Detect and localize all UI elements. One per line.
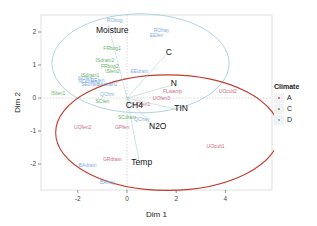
x-tick-label: 0 — [125, 195, 129, 202]
legend-item-d: D — [274, 114, 316, 125]
site-label: GPfen — [115, 124, 129, 130]
y-axis-label: Dim 2 — [13, 92, 22, 113]
variable-label: N — [171, 78, 177, 88]
site-label: BAdrain — [79, 162, 97, 168]
site-label: UOfen2 — [74, 124, 91, 130]
legend-item-c: C — [274, 103, 316, 114]
site-label: ISfen2 — [105, 68, 120, 74]
y-tick-label: 2 — [32, 28, 36, 35]
variable-label: TIN — [174, 103, 188, 113]
site-label: ISfen1 — [51, 90, 66, 96]
site-label: GRdrain — [103, 156, 122, 162]
x-tick-label: 4 — [224, 195, 228, 202]
x-tick-label: 2 — [174, 195, 178, 202]
dot-icon — [278, 108, 280, 110]
site-label: UOcult2 — [219, 88, 237, 94]
site-label: SCfen — [95, 98, 109, 104]
y-tick-label: 0 — [32, 94, 36, 101]
site-label: ISdrain2 — [96, 57, 115, 63]
variable-label: Moisture — [96, 25, 129, 35]
variable-label: CH4 — [126, 100, 143, 110]
site-label: FRbog1 — [103, 45, 121, 51]
legend-key — [274, 93, 284, 103]
variable-label: N2O — [149, 121, 167, 131]
dot-icon — [278, 97, 280, 99]
legend-label: A — [287, 94, 292, 101]
site-label: UOcult1 — [207, 143, 225, 149]
legend-key — [274, 115, 284, 125]
site-label: RObog — [107, 17, 123, 23]
legend-item-a: A — [274, 92, 316, 103]
variable-label: C — [166, 47, 172, 57]
x-axis-label: Dim 1 — [146, 210, 167, 219]
legend-title: Climate — [274, 83, 316, 90]
x-tick-label: -2 — [75, 195, 81, 202]
legend: Climate ACD — [274, 83, 316, 125]
plot-panel — [41, 15, 272, 190]
dot-icon — [278, 119, 280, 121]
legend-key — [274, 104, 284, 114]
y-tick-label: -1 — [30, 127, 36, 134]
site-label: UOfen3 — [153, 95, 170, 101]
legend-label: D — [287, 116, 292, 123]
biplot-chart: -2024-2-1012Dim 1Dim 2RObogROhayEEfenFRb… — [0, 0, 317, 226]
site-label: BAdrain2 — [97, 81, 118, 87]
site-label: EEfen — [150, 32, 164, 38]
site-label: EEdrain — [130, 68, 148, 74]
site-label: QChm — [100, 91, 114, 97]
y-tick-label: -2 — [30, 160, 36, 167]
site-label: BAhay — [100, 179, 115, 185]
variable-label: Temp — [131, 157, 152, 167]
site-label: FLwamp — [163, 88, 182, 94]
site-label: QChay — [134, 116, 150, 122]
y-tick-label: 1 — [32, 61, 36, 68]
legend-label: C — [287, 105, 292, 112]
